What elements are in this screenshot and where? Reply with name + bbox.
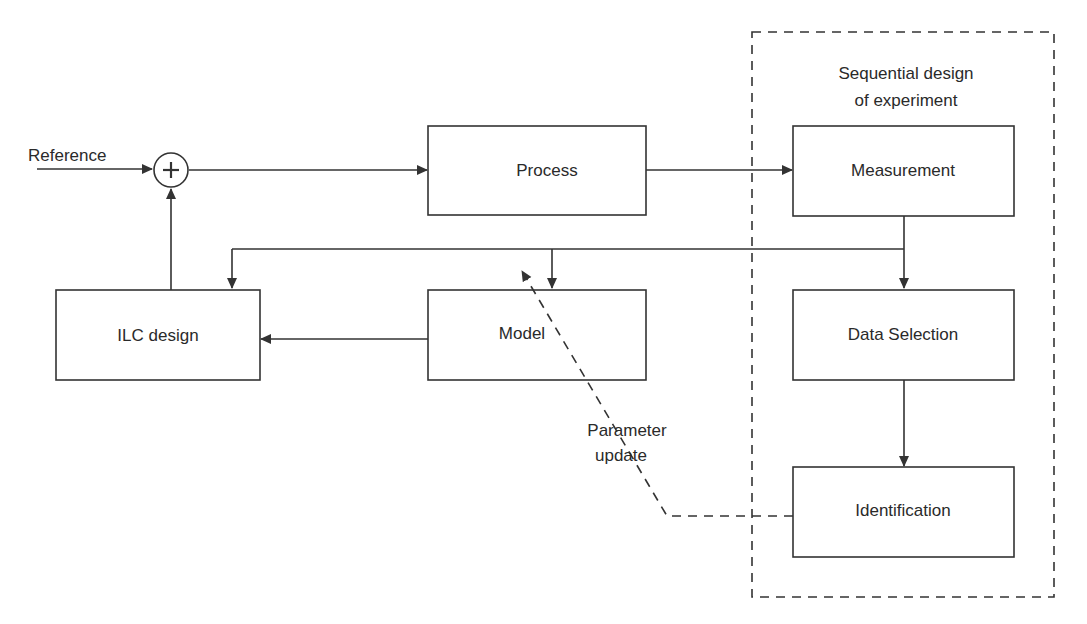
model-label: Model [499, 324, 545, 343]
process-block: Process [428, 126, 646, 215]
identification-block: Identification [793, 467, 1014, 557]
measurement-block: Measurement [793, 126, 1014, 216]
group-label-line2: of experiment [855, 91, 958, 110]
ilc-design-block: ILC design [56, 290, 260, 380]
data-selection-label: Data Selection [848, 325, 959, 344]
identification-label: Identification [855, 501, 950, 520]
ilc-design-label: ILC design [117, 326, 198, 345]
process-label: Process [516, 161, 577, 180]
parameter-update-label-line2: update [595, 446, 647, 465]
summing-junction [154, 153, 188, 187]
model-block: Model [428, 290, 646, 380]
data-selection-block: Data Selection [793, 290, 1014, 380]
measurement-label: Measurement [851, 161, 955, 180]
ilc-block-diagram: Sequential design of experiment Referenc… [0, 0, 1087, 624]
parameter-update-label-line1: Parameter [587, 421, 667, 440]
reference-label: Reference [28, 146, 106, 165]
group-label-line1: Sequential design [838, 64, 973, 83]
